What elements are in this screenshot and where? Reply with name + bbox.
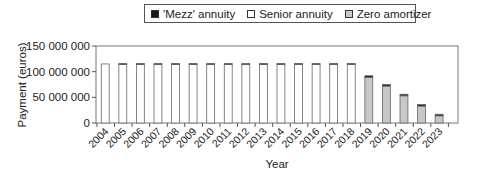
- bar-zero-amortizer-2023: [435, 116, 443, 123]
- bar-chart: 050 000 000100 000 000150 000 0002004200…: [0, 0, 478, 174]
- bar-senior-annuity-2014: [277, 64, 285, 123]
- y-tick-label: 50 000 000: [32, 91, 90, 103]
- bar-senior-annuity-2018: [347, 64, 355, 123]
- bar-mezz-annuity-2013: [259, 63, 267, 64]
- bar-zero-amortizer-2019: [365, 77, 373, 123]
- bar-mezz-annuity-2023: [435, 114, 443, 116]
- bar-mezz-annuity-2011: [224, 63, 232, 64]
- bar-mezz-annuity-2010: [207, 63, 215, 64]
- y-tick-label: 150 000 000: [26, 40, 90, 52]
- bar-mezz-annuity-2020: [382, 85, 390, 87]
- x-tick-label: 2023: [420, 125, 445, 150]
- bar-mezz-annuity-2021: [400, 94, 408, 96]
- bar-senior-annuity-2004: [101, 64, 109, 123]
- bar-mezz-annuity-2018: [347, 63, 355, 64]
- bar-mezz-annuity-2019: [365, 76, 373, 78]
- bar-mezz-annuity-2014: [277, 63, 285, 64]
- bar-senior-annuity-2015: [295, 64, 303, 123]
- bar-senior-annuity-2016: [312, 64, 320, 123]
- bar-senior-annuity-2009: [189, 64, 197, 123]
- bars: [101, 63, 443, 123]
- bar-mezz-annuity-2007: [154, 63, 162, 64]
- bar-senior-annuity-2007: [154, 64, 162, 123]
- bar-mezz-annuity-2005: [119, 63, 127, 64]
- bar-zero-amortizer-2020: [382, 86, 390, 123]
- bar-senior-annuity-2008: [172, 64, 180, 123]
- bar-senior-annuity-2005: [119, 64, 127, 123]
- x-axis-label: Year: [265, 158, 288, 170]
- bar-senior-annuity-2011: [224, 64, 232, 123]
- bar-mezz-annuity-2009: [189, 63, 197, 64]
- bar-senior-annuity-2006: [136, 64, 144, 123]
- y-axis-label: Payment (euros): [16, 42, 28, 127]
- y-tick-label: 0: [84, 117, 90, 129]
- bar-zero-amortizer-2022: [418, 106, 426, 123]
- bar-senior-annuity-2017: [330, 64, 338, 123]
- bar-senior-annuity-2012: [242, 64, 250, 123]
- bar-mezz-annuity-2006: [136, 63, 144, 64]
- bar-mezz-annuity-2022: [418, 105, 426, 107]
- bar-mezz-annuity-2012: [242, 63, 250, 64]
- bar-mezz-annuity-2017: [330, 63, 338, 64]
- bar-senior-annuity-2013: [259, 64, 267, 123]
- y-tick-label: 100 000 000: [26, 66, 90, 78]
- bar-mezz-annuity-2008: [172, 63, 180, 64]
- bar-mezz-annuity-2015: [295, 63, 303, 64]
- bar-mezz-annuity-2016: [312, 63, 320, 64]
- bar-senior-annuity-2010: [207, 64, 215, 123]
- bar-zero-amortizer-2021: [400, 96, 408, 123]
